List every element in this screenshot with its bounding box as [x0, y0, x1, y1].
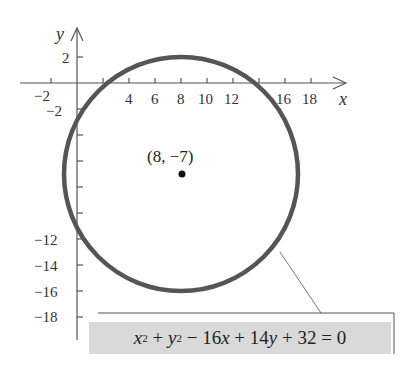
eq-term: + 14	[230, 327, 269, 349]
eq-x2: x	[221, 327, 229, 349]
y-tick-label: −12	[34, 232, 57, 248]
x-ticks	[51, 78, 311, 83]
x-tick-label: 6	[151, 91, 159, 107]
eq-y2: y	[269, 327, 277, 349]
x-tick-label: 12	[224, 91, 239, 107]
y-axis-label: y	[54, 24, 64, 44]
x-tick-label: −2	[34, 88, 50, 104]
x-tick-label: 18	[302, 91, 317, 107]
eq-x: x	[134, 327, 142, 349]
x-tick-label: 16	[276, 91, 292, 107]
eq-term: + 32 = 0	[277, 327, 346, 349]
y-ticks	[77, 57, 83, 317]
center-point	[179, 171, 186, 178]
y-tick-label: −14	[34, 258, 58, 274]
x-tick-label: 8	[177, 91, 185, 107]
eq-plus: +	[148, 327, 168, 349]
callout-line	[280, 252, 321, 313]
coordinate-plane: −2 4 6 8 10 12 16 18 x y 2 −2 −12 −14 −1…	[0, 0, 417, 369]
x-tick-label: 10	[198, 91, 213, 107]
x-axis-label: x	[338, 89, 347, 109]
y-tick-label: 2	[62, 50, 70, 66]
y-tick-label: −18	[34, 309, 57, 325]
eq-term: − 16	[182, 327, 221, 349]
x-tick-label: 4	[125, 91, 133, 107]
y-tick-label: −16	[34, 284, 58, 300]
eq-y: y	[168, 327, 176, 349]
equation-box: x2 + y2 − 16x + 14y + 32 = 0	[89, 322, 391, 354]
y-tick-label: −2	[46, 103, 62, 119]
center-label: (8, −7)	[147, 147, 193, 166]
